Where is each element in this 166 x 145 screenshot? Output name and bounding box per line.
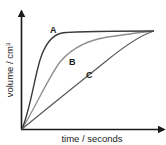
x-axis-label: time / seconds: [61, 133, 122, 144]
y-axis-label-base: volume / cm: [4, 46, 15, 97]
curve-b: [22, 31, 154, 129]
y-axis-label-superscript: 3: [5, 42, 11, 46]
curve-label-b: B: [69, 57, 76, 67]
curve-label-a: A: [50, 25, 57, 35]
curve-c: [22, 31, 154, 129]
y-axis-label: volume / cm3: [4, 42, 15, 97]
curve-label-c: C: [86, 70, 93, 80]
rate-of-reaction-chart: A B C time / seconds volume / cm3: [0, 0, 166, 145]
curve-a: [22, 31, 154, 129]
